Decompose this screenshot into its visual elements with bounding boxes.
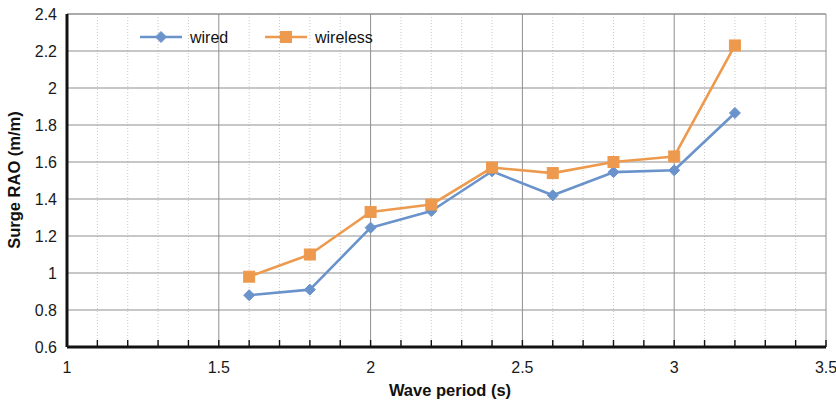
y-axis-tick-label: 2 [48,80,57,97]
y-axis-tick-label: 1.2 [35,228,57,245]
y-axis-tick-label: 1.4 [35,191,57,208]
x-axis-tick-label: 1.5 [208,359,230,376]
y-axis-tick-label: 0.6 [35,339,57,356]
x-axis-tick-label: 2.5 [511,359,533,376]
y-axis-tick-label: 2.2 [35,43,57,60]
y-axis-tick-label: 2.4 [35,6,57,23]
x-axis-tick-label: 2 [366,359,375,376]
chart-container: 0.60.811.21.41.61.822.22.4 11.522.533.5 … [0,0,836,403]
y-axis-tick-label: 0.8 [35,302,57,319]
surge-rao-line-chart: 0.60.811.21.41.61.822.22.4 11.522.533.5 … [0,0,836,403]
x-axis-title: Wave period (s) [389,381,511,399]
data-point-marker [608,157,619,168]
data-point-marker [244,271,255,282]
x-axis-tick-label: 3.5 [815,359,836,376]
legend-label: wired [189,29,228,46]
x-axis-tick-label: 3 [670,359,679,376]
data-point-marker [304,249,315,260]
data-point-marker [365,206,376,217]
x-axis-tick-label: 1 [63,359,72,376]
data-point-marker [487,162,498,173]
data-point-marker [547,168,558,179]
y-axis-tick-label: 1.8 [35,117,57,134]
y-axis-title: Surge RAO (m/m) [5,111,23,249]
data-point-marker [669,151,680,162]
chart-background [0,0,836,403]
y-axis-tick-label: 1 [48,265,57,282]
data-point-marker [729,40,740,51]
legend-label: wireless [314,29,373,46]
legend-marker-swatch [281,32,292,43]
data-point-marker [426,199,437,210]
y-axis-tick-label: 1.6 [35,154,57,171]
